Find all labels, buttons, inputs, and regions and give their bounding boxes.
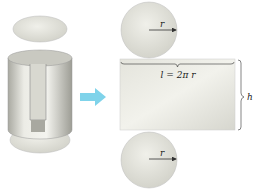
transform-arrow-icon [80, 88, 106, 106]
cylinder-rim [8, 50, 72, 66]
bottom-circle [121, 132, 177, 188]
radius-label-top: r [160, 19, 165, 29]
top-disc-3d [13, 16, 67, 42]
height-brace [238, 60, 244, 130]
radius-label-bottom: r [160, 148, 165, 158]
length-label: l = 2π r [161, 70, 197, 80]
height-label: h [247, 92, 253, 102]
cylinder-3d [8, 16, 72, 153]
cylinder-net: r l = 2π r h r [120, 2, 253, 188]
cylinder-net-diagram: r l = 2π r h r [0, 0, 258, 196]
cylinder-slit [30, 64, 46, 120]
